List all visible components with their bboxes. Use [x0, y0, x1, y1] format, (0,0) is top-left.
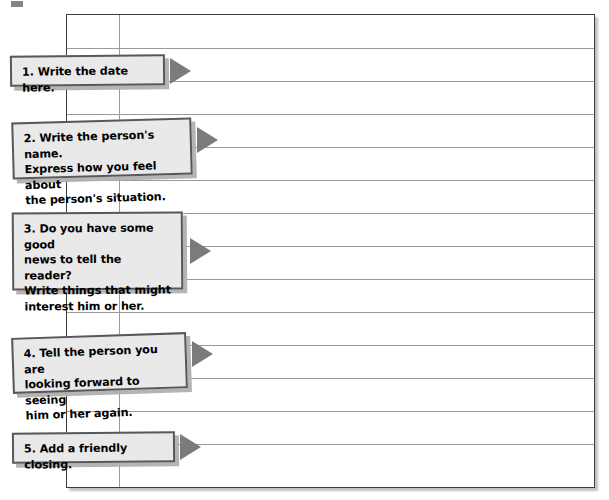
- step-3-share-good-news-callout: 3. Do you have some good news to tell th…: [12, 211, 184, 290]
- step-2-name-and-feelings-callout: 2. Write the person's name. Express how …: [11, 117, 193, 179]
- step-2-name-and-feelings-pointer-arrow-icon: [197, 127, 218, 153]
- paper-rule-line: [67, 48, 594, 49]
- step-4-looking-forward-pointer-arrow-icon: [192, 341, 213, 367]
- step-1-write-the-date-callout: 1. Write the date here.: [10, 54, 165, 87]
- step-5-friendly-closing-callout: 5. Add a friendly closing.: [12, 431, 175, 463]
- step-5-friendly-closing-pointer-arrow-icon: [180, 434, 201, 460]
- step-3-share-good-news-text: 3. Do you have some good news to tell th…: [24, 220, 173, 314]
- scan-artifact-mark: [11, 1, 23, 7]
- paper-rule-line: [67, 114, 594, 115]
- step-5-friendly-closing-text: 5. Add a friendly closing.: [24, 440, 164, 472]
- step-1-write-the-date-text: 1. Write the date here.: [22, 63, 154, 95]
- step-4-looking-forward-callout: 4. Tell the person you are looking forwa…: [11, 332, 188, 394]
- step-3-share-good-news-pointer-arrow-icon: [190, 238, 211, 264]
- step-4-looking-forward-text: 4. Tell the person you are looking forwa…: [23, 341, 177, 423]
- step-1-write-the-date-pointer-arrow-icon: [170, 58, 191, 84]
- worksheet-page: 1. Write the date here.2. Write the pers…: [0, 0, 609, 500]
- step-2-name-and-feelings-text: 2. Write the person's name. Express how …: [23, 127, 182, 209]
